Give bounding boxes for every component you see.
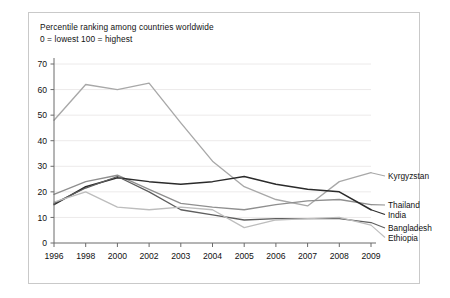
chart-svg: 010203040506070 199619982000200220032004… <box>0 0 450 298</box>
series-line-kyrgyzstan <box>54 83 371 206</box>
x-axis-tick-label: 2008 <box>330 251 349 261</box>
x-axis-tick-label: 1996 <box>44 251 63 261</box>
x-axis-tick-label: 2006 <box>266 251 285 261</box>
y-axis-tick-label: 70 <box>37 59 47 69</box>
series-line-thailand <box>54 175 371 210</box>
y-axis-tick-label: 40 <box>37 136 47 146</box>
line-chart: 010203040506070 199619982000200220032004… <box>0 0 450 298</box>
x-axis-tick-label: 2004 <box>203 251 222 261</box>
x-axis-tick-label: 2000 <box>108 251 127 261</box>
y-axis-tick-label: 10 <box>37 213 47 223</box>
series-line-ethiopia <box>54 192 371 228</box>
legend-label-ethiopia: Ethiopia <box>388 233 418 243</box>
legend-leader-india <box>371 210 385 215</box>
series-layer <box>54 83 371 227</box>
x-axis-tick-label: 2002 <box>140 251 159 261</box>
y-axis-tick-label: 30 <box>37 161 47 171</box>
x-axis-tick-label: 2005 <box>235 251 254 261</box>
x-axis-tick-label: 1998 <box>76 251 95 261</box>
y-axis-tick-label: 20 <box>37 187 47 197</box>
y-axis-tick-label: 50 <box>37 110 47 120</box>
y-axis-tick-label: 0 <box>42 238 47 248</box>
legend-label-bangladesh: Bangladesh <box>388 223 432 233</box>
legend: KyrgyzstanThailandIndiaBangladeshEthiopi… <box>371 171 432 243</box>
legend-label-kyrgyzstan: Kyrgyzstan <box>388 171 429 181</box>
x-axis-tick-label: 2009 <box>361 251 380 261</box>
y-axis-tick-label: 60 <box>37 85 47 95</box>
x-axis-tick-label: 2003 <box>171 251 190 261</box>
x-axis-labels: 1996199820002002200320042005200620072008… <box>44 251 380 261</box>
y-axis-labels: 010203040506070 <box>37 59 47 248</box>
legend-label-india: India <box>388 210 406 220</box>
legend-leader-kyrgyzstan <box>371 173 385 176</box>
legend-label-thailand: Thailand <box>388 200 420 210</box>
x-axis-tick-label: 2007 <box>298 251 317 261</box>
